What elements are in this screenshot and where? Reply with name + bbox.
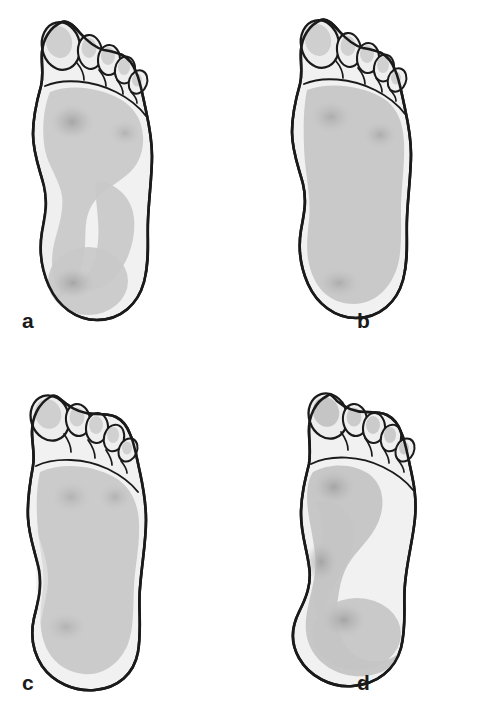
toe-pad-fourth-c (107, 427, 119, 443)
hotspot-first-metatarsal-b (309, 100, 353, 134)
foot-diagram-b (249, 0, 498, 362)
toe-pad-fourth-d (384, 427, 396, 443)
panel-c: c (0, 362, 249, 724)
hotspot-fifth-metatarsal-a (109, 120, 141, 146)
hotspot-heel-a (51, 267, 95, 299)
hotspot-heel-c (45, 612, 87, 642)
hotspot-heel-d (322, 603, 366, 637)
toe-pad-fifth-c (122, 442, 132, 455)
panel-label-c: c (22, 672, 34, 693)
foot-diagram-a (0, 0, 249, 362)
foot-diagram-c (0, 362, 249, 724)
foot-diagram-d (249, 362, 498, 724)
figure-container: a (0, 0, 498, 724)
hotspot-fifth-metatarsal-b (363, 121, 397, 149)
panel-d: d (249, 362, 498, 724)
hotspot-first-metatarsal-d (313, 470, 355, 504)
hotspot-heel-b (317, 268, 361, 298)
panel-b: b (249, 0, 498, 362)
toe-pad-third-d (366, 416, 380, 434)
toe-pad-fourth-b (377, 57, 389, 73)
panel-label-b: b (357, 310, 370, 331)
panel-label-a: a (22, 310, 34, 331)
panel-label-d: d (357, 672, 370, 693)
hotspot-first-metatarsal-c (51, 481, 91, 513)
panel-a: a (0, 0, 249, 362)
hotspot-first-metatarsal-a (50, 104, 94, 140)
toe-pad-fourth-a (118, 59, 130, 75)
hotspot-fifth-metatarsal-c (98, 483, 132, 511)
toe-pad-third-c (89, 416, 103, 434)
